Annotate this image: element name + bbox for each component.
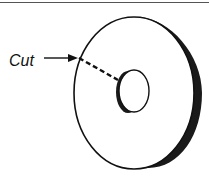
- disk-diagram: [0, 0, 209, 187]
- hole-opening: [119, 70, 149, 112]
- arrow-head-icon: [68, 54, 78, 62]
